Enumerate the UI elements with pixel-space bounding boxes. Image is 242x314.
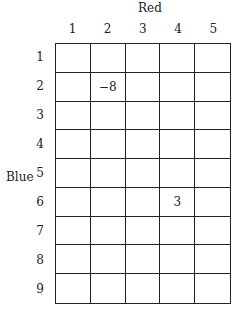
grid-cell xyxy=(195,159,230,188)
column-header: 2 xyxy=(90,22,125,36)
grid-cell xyxy=(91,274,126,303)
grid-cell xyxy=(126,44,161,73)
row-header: 3 xyxy=(30,108,50,122)
column-axis-label: Red xyxy=(125,1,175,15)
grid-cell xyxy=(160,217,195,246)
grid-cell xyxy=(91,159,126,188)
row-axis-label: Blue xyxy=(6,170,34,184)
grid-cell xyxy=(160,102,195,131)
grid-cell xyxy=(126,130,161,159)
grid-cell xyxy=(126,274,161,303)
grid-cell xyxy=(160,245,195,274)
grid-cell xyxy=(195,245,230,274)
grid-cell xyxy=(160,274,195,303)
row-header: 7 xyxy=(30,224,50,238)
grid-cell xyxy=(160,159,195,188)
grid-cell xyxy=(91,217,126,246)
grid-cell xyxy=(91,102,126,131)
row-header: 9 xyxy=(30,282,50,296)
grid-cell xyxy=(126,217,161,246)
grid-cell xyxy=(160,44,195,73)
grid-cell xyxy=(126,245,161,274)
row-header: 4 xyxy=(30,137,50,151)
column-header: 5 xyxy=(196,22,231,36)
grid-cell xyxy=(160,73,195,102)
grid-cell xyxy=(56,73,91,102)
grid-cell xyxy=(91,130,126,159)
payoff-grid: −83 xyxy=(55,43,231,304)
grid-cell xyxy=(195,44,230,73)
grid-cell xyxy=(195,130,230,159)
grid-cell xyxy=(195,217,230,246)
grid-cell xyxy=(126,188,161,217)
grid-cell xyxy=(126,73,161,102)
grid-cell xyxy=(126,159,161,188)
column-header: 3 xyxy=(125,22,160,36)
grid-cell xyxy=(56,102,91,131)
grid-cell xyxy=(56,188,91,217)
grid-cell: 3 xyxy=(160,188,195,217)
row-header: 6 xyxy=(30,195,50,209)
grid-cell xyxy=(195,73,230,102)
grid-cell xyxy=(91,188,126,217)
grid-cell xyxy=(195,102,230,131)
column-header: 1 xyxy=(55,22,90,36)
grid-cell xyxy=(56,130,91,159)
grid-cell: −8 xyxy=(91,73,126,102)
grid-cell xyxy=(56,44,91,73)
row-header: 8 xyxy=(30,253,50,267)
grid-cell xyxy=(160,130,195,159)
grid-cell xyxy=(126,102,161,131)
column-header: 4 xyxy=(161,22,196,36)
grid-cell xyxy=(195,188,230,217)
grid-cell xyxy=(56,159,91,188)
grid-cell xyxy=(56,245,91,274)
grid-cell xyxy=(56,217,91,246)
grid-cell xyxy=(195,274,230,303)
grid-cell xyxy=(56,274,91,303)
grid-cell xyxy=(91,44,126,73)
row-header: 2 xyxy=(30,79,50,93)
row-header: 1 xyxy=(30,50,50,64)
grid-cell xyxy=(91,245,126,274)
